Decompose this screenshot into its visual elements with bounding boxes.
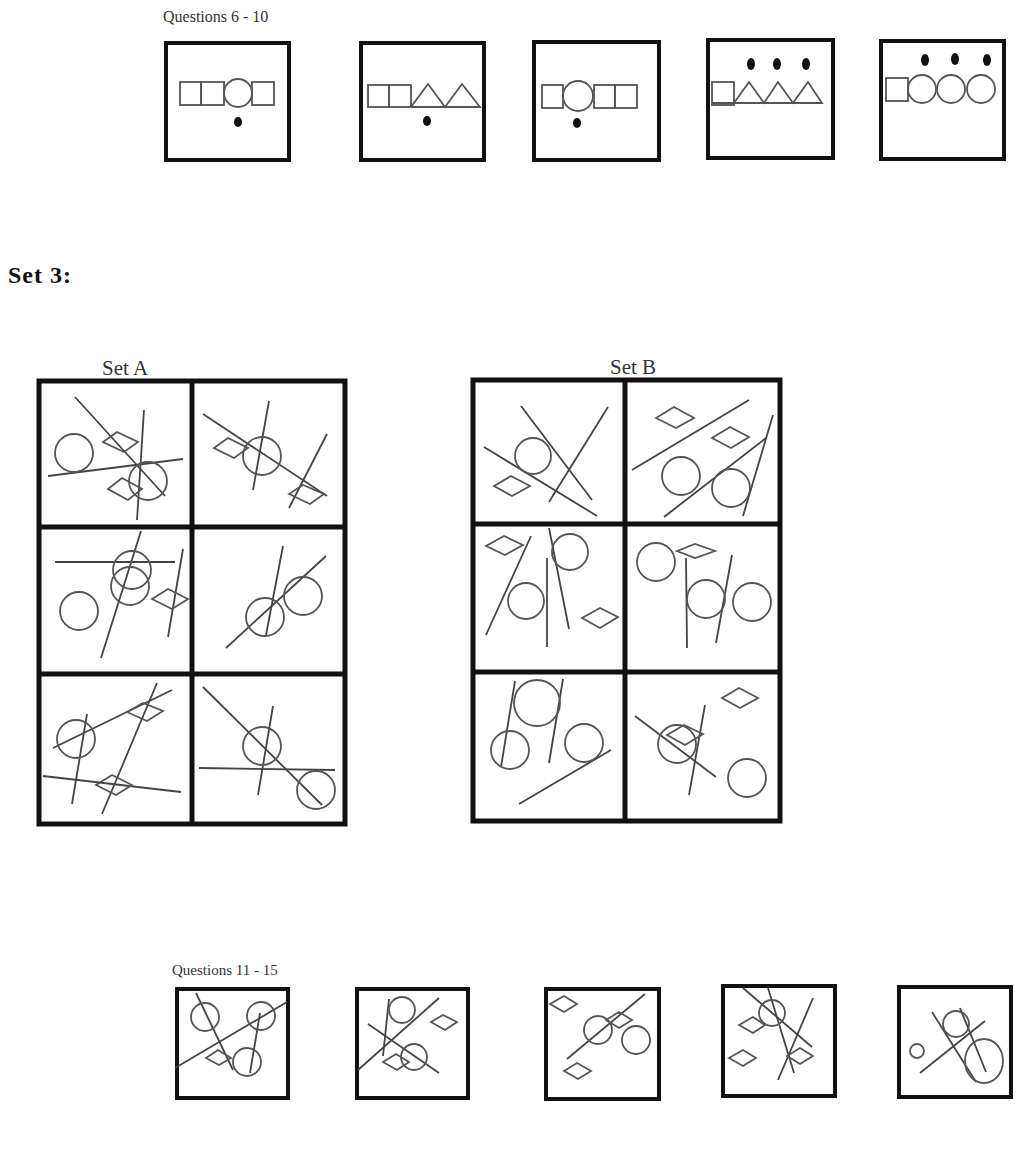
question-6-figure[interactable] [166, 43, 289, 160]
question-11-figure[interactable] [175, 989, 288, 1098]
question-7-figure[interactable] [361, 43, 484, 160]
set-b-label: Set B [610, 355, 656, 380]
question-10-figure[interactable] [881, 41, 1004, 159]
question-8-figure[interactable] [534, 42, 659, 160]
question-13-figure[interactable] [546, 989, 659, 1099]
question-9-figure[interactable] [708, 40, 833, 158]
question-12-figure[interactable] [357, 989, 468, 1098]
questions-11-15-label: Questions 11 - 15 [172, 962, 278, 979]
figures-canvas [0, 0, 1026, 1151]
question-14-figure[interactable] [723, 986, 835, 1096]
set-3-heading: Set 3: [8, 262, 72, 289]
question-15-figure[interactable] [899, 987, 1011, 1097]
set-a-grid [39, 381, 345, 824]
set-a-label: Set A [102, 356, 148, 381]
